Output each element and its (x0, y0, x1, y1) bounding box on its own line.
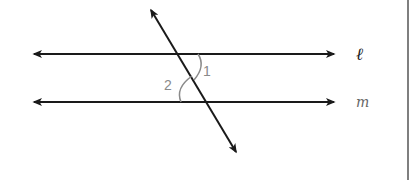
line-m-label: m (356, 94, 369, 110)
parallel-lines-diagram: 1 2 ℓ m (0, 0, 416, 180)
angle-2-label: 2 (164, 77, 172, 93)
angle-2-arc (179, 76, 192, 102)
line-l-label: ℓ (356, 44, 363, 64)
angle-1-arc (194, 54, 201, 80)
angle-1-label: 1 (203, 63, 211, 79)
